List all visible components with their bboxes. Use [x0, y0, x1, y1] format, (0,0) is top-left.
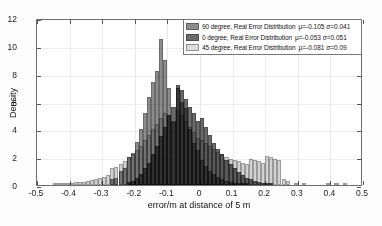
- legend-stats: μ=-0.053 σ=0.051: [295, 34, 347, 41]
- y-tick-label: 2: [12, 153, 17, 163]
- y-tick-label: 10: [8, 42, 17, 52]
- legend-swatch-icon: [186, 23, 199, 30]
- y-tick-label: 4: [12, 125, 17, 135]
- x-tick: [363, 181, 364, 185]
- x-tick-label: -0.1: [159, 188, 174, 198]
- x-axis-label: error/m at distance of 5 m: [36, 200, 362, 210]
- x-tick-label: -0.4: [61, 188, 76, 198]
- y-tick-label: 0: [12, 181, 17, 191]
- legend-item: 45 degree, Real Error Distribution μ=-0.…: [186, 43, 359, 53]
- histogram-bar: [269, 183, 273, 185]
- legend-item: 90 degree, Real Error Distribution μ=-0.…: [186, 22, 359, 32]
- x-tick: [363, 20, 364, 24]
- legend-stats: μ=-0.081 σ=0.09: [298, 44, 346, 51]
- y-tick-label: 8: [12, 70, 17, 80]
- x-tick-label: -0.3: [94, 188, 109, 198]
- legend-swatch-icon: [186, 44, 199, 51]
- x-tick-label: 0.4: [323, 188, 335, 198]
- legend-swatch-icon: [186, 34, 199, 41]
- legend: 90 degree, Real Error Distribution μ=-0.…: [183, 19, 362, 55]
- y-tick-label: 6: [12, 98, 17, 108]
- x-tick-label: 0: [197, 188, 202, 198]
- legend-item: 0 degree, Real Error Distribution μ=-0.0…: [186, 32, 359, 42]
- legend-stats: μ=-0.105 σ=0.041: [298, 23, 350, 30]
- x-tick-label: 0.3: [291, 188, 303, 198]
- figure: Density 024681012 -0.5-0.4-0.3-0.2-0.100…: [0, 0, 382, 226]
- x-tick-label: -0.2: [126, 188, 141, 198]
- legend-label: 45 degree, Real Error Distribution: [202, 44, 295, 51]
- legend-label: 0 degree, Real Error Distribution: [202, 34, 292, 41]
- x-tick-label: -0.5: [29, 188, 44, 198]
- x-tick-label: 0.5: [356, 188, 368, 198]
- legend-label: 90 degree, Real Error Distribution: [202, 23, 295, 30]
- y-tick-label: 12: [8, 14, 17, 24]
- x-tick-label: 0.2: [258, 188, 270, 198]
- x-tick-label: 0.1: [226, 188, 238, 198]
